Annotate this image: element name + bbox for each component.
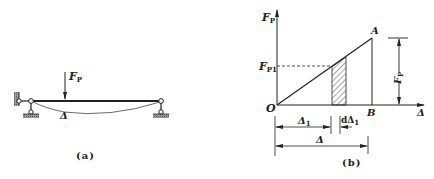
deflection-label: Δ <box>60 111 68 121</box>
deflection-curve <box>33 102 160 114</box>
caption-a: (a) <box>76 151 95 161</box>
caption-b: (b) <box>342 158 361 168</box>
hinge-right <box>159 99 164 104</box>
point-b-label: B <box>367 108 375 118</box>
ground-left <box>23 114 39 118</box>
figure-a <box>14 72 169 118</box>
x-axis-label: Δ <box>417 108 425 118</box>
fp1-label: FP1 <box>259 61 277 73</box>
point-a-label: A <box>371 26 379 36</box>
y-axis-label: FP <box>262 12 275 24</box>
origin-label: O <box>266 103 276 114</box>
figure-canvas <box>0 0 434 179</box>
delta-label: Δ <box>316 135 324 145</box>
ground-right <box>153 114 169 118</box>
pin-left <box>29 110 33 114</box>
delta1-label: Δ1 <box>298 116 311 127</box>
hinge-left <box>29 99 34 104</box>
d-delta1-label: dΔ1 <box>341 116 359 126</box>
pin-right <box>159 110 163 114</box>
load-label: FP <box>69 71 82 83</box>
fp-dimension-label: FP <box>393 72 404 84</box>
load-line-oa <box>277 38 372 105</box>
hinge-wall <box>17 99 21 103</box>
